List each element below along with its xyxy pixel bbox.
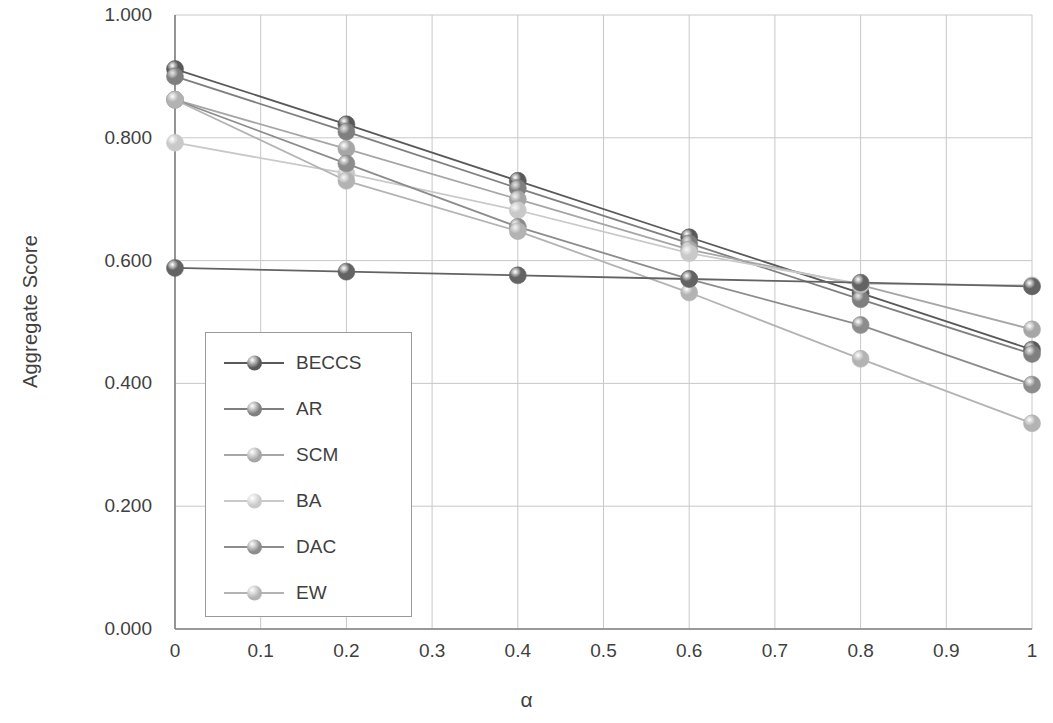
data-point-marker bbox=[509, 223, 526, 240]
data-point-marker bbox=[852, 317, 869, 334]
legend-line-swatch bbox=[224, 454, 284, 456]
legend-item-label: BA bbox=[296, 490, 321, 512]
chart-legend: BECCSARSCMBADACEW bbox=[205, 332, 412, 617]
y-axis-tick-labels: 0.0000.2000.4000.6000.8001.000 bbox=[30, 0, 152, 723]
plot-area bbox=[0, 0, 1053, 723]
legend-item-label: AR bbox=[296, 398, 322, 420]
data-point-marker bbox=[1024, 345, 1041, 362]
data-point-marker bbox=[338, 172, 355, 189]
legend-item-label: EW bbox=[296, 582, 327, 604]
x-axis-title: α bbox=[0, 688, 1053, 712]
legend-item[interactable]: BECCS bbox=[224, 353, 361, 373]
legend-item-label: BECCS bbox=[296, 352, 361, 374]
x-axis-tick-label: 0.8 bbox=[821, 640, 901, 662]
data-point-marker bbox=[1024, 415, 1041, 432]
data-point-marker bbox=[681, 271, 698, 288]
legend-line-swatch bbox=[224, 546, 284, 548]
legend-line-swatch bbox=[224, 362, 284, 364]
data-point-marker bbox=[852, 350, 869, 367]
y-axis-tick-label: 0.600 bbox=[52, 250, 152, 272]
x-axis-tick-label: 0.4 bbox=[478, 640, 558, 662]
legend-line-swatch bbox=[224, 592, 284, 594]
legend-line-swatch bbox=[224, 500, 284, 502]
legend-item-label: DAC bbox=[296, 536, 336, 558]
x-axis-tick-label: 0.9 bbox=[906, 640, 986, 662]
legend-marker-icon bbox=[247, 586, 262, 601]
x-axis-tick-label: 0.3 bbox=[392, 640, 472, 662]
y-axis-tick-label: 0.400 bbox=[52, 372, 152, 394]
data-point-marker bbox=[167, 259, 184, 276]
x-axis-tick-label: 0.2 bbox=[306, 640, 386, 662]
data-point-marker bbox=[852, 274, 869, 291]
data-point-marker bbox=[1024, 376, 1041, 393]
x-axis-tick-label: 0.6 bbox=[649, 640, 729, 662]
legend-marker-icon bbox=[247, 494, 262, 509]
data-point-marker bbox=[167, 68, 184, 85]
y-axis-tick-label: 0.800 bbox=[52, 127, 152, 149]
legend-item[interactable]: SCM bbox=[224, 445, 338, 465]
x-axis-tick-label: 0 bbox=[135, 640, 215, 662]
legend-marker-icon bbox=[247, 540, 262, 555]
data-point-marker bbox=[167, 91, 184, 108]
legend-item[interactable]: AR bbox=[224, 399, 322, 419]
data-point-marker bbox=[338, 123, 355, 140]
data-point-marker bbox=[338, 263, 355, 280]
data-point-marker bbox=[1024, 278, 1041, 295]
legend-item[interactable]: BA bbox=[224, 491, 321, 511]
data-point-marker bbox=[509, 267, 526, 284]
data-point-marker bbox=[338, 155, 355, 172]
legend-item[interactable]: DAC bbox=[224, 537, 336, 557]
x-axis-tick-label: 0.1 bbox=[221, 640, 301, 662]
y-axis-tick-label: 0.000 bbox=[52, 618, 152, 640]
x-axis-tick-label: 0.5 bbox=[564, 640, 644, 662]
y-axis-tick-label: 1.000 bbox=[52, 4, 152, 26]
data-point-marker bbox=[1024, 321, 1041, 338]
data-point-marker bbox=[167, 134, 184, 151]
legend-item-label: SCM bbox=[296, 444, 338, 466]
chart-container: Aggregate Score α 0.0000.2000.4000.6000.… bbox=[0, 0, 1053, 723]
legend-marker-icon bbox=[247, 356, 262, 371]
legend-line-swatch bbox=[224, 408, 284, 410]
legend-marker-icon bbox=[247, 448, 262, 463]
x-axis-tick-label: 0.7 bbox=[735, 640, 815, 662]
x-axis-tick-label: 1 bbox=[992, 640, 1053, 662]
data-point-marker bbox=[681, 245, 698, 262]
y-axis-tick-label: 0.200 bbox=[52, 495, 152, 517]
data-point-marker bbox=[509, 202, 526, 219]
legend-item[interactable]: EW bbox=[224, 583, 327, 603]
legend-marker-icon bbox=[247, 402, 262, 417]
